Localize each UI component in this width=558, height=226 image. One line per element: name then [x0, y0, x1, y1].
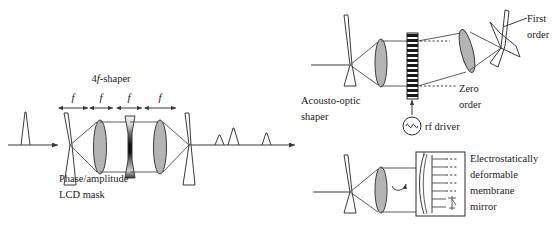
- panel-membrane-mirror: Electrostatically deformable membrane mi…: [313, 152, 539, 216]
- segment-label-f-2: f: [99, 91, 104, 103]
- diffraction-order-shapes: [490, 10, 520, 67]
- segment-label-f-1: f: [71, 91, 76, 103]
- output-pulse-train: [215, 128, 271, 145]
- segment-label-f-3: f: [127, 91, 132, 103]
- lcd-mask-label-line1: Phase/amplitude: [59, 173, 129, 184]
- acousto-optic-label-line2: shaper: [301, 111, 329, 122]
- first-order-leader: [503, 18, 527, 27]
- output-pulse-1: [215, 135, 224, 145]
- input-pulse: [21, 112, 30, 145]
- ao-lens-1: [375, 39, 387, 87]
- acousto-optic-crystal: [407, 33, 418, 99]
- lcd-mask-label-line2: LCD mask: [59, 189, 106, 200]
- membrane-label-line1: Electrostatically: [470, 153, 539, 164]
- mm-input-grating: [344, 155, 356, 213]
- ao-input-grating: [344, 15, 356, 86]
- optical-diagram: 4f-shaper f f f f: [0, 0, 558, 226]
- acousto-optic-label-line1: Acousto-optic: [301, 95, 361, 106]
- panel-acousto-optic-shaper: Acousto-optic shaper First order Zero or…: [301, 10, 550, 135]
- first-order-label-line1: First: [527, 13, 546, 24]
- membrane-label-line4: mirror: [470, 201, 497, 212]
- ao-out-top: [470, 32, 501, 48]
- lcd-mask: [125, 116, 135, 178]
- zero-order-label-line2: order: [459, 99, 482, 110]
- ao-diffract-top: [418, 33, 461, 41]
- membrane-label-line2: deformable: [470, 169, 518, 180]
- zero-order-label-line1: Zero: [459, 83, 479, 94]
- curved-return-arrow-icon: [392, 184, 406, 190]
- mm-lens: [375, 167, 387, 213]
- panel-four-f-shaper: 4f-shaper f f f f: [8, 72, 295, 200]
- membrane-label-line3: membrane: [470, 185, 515, 196]
- mm-beam-up: [350, 169, 378, 192]
- figure-canvas: 4f-shaper f f f f: [0, 0, 558, 226]
- first-order-label-line2: order: [527, 29, 550, 40]
- rf-driver-icon: [403, 117, 421, 135]
- lens-1: [94, 120, 107, 174]
- segment-label-f-4: f: [158, 91, 163, 103]
- output-pulse-3: [262, 133, 271, 145]
- four-f-shaper-title: 4f-shaper: [91, 72, 131, 84]
- rf-driver-label: rf driver: [425, 121, 460, 132]
- lens-2: [154, 120, 167, 174]
- output-pulse-2: [228, 128, 239, 145]
- ao-beam-up: [350, 42, 378, 65]
